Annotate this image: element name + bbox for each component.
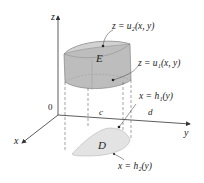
- h2-curve-label: x = h₂(y): [117, 161, 152, 172]
- y-upper-bound-label: d: [148, 107, 153, 117]
- h1-curve-label: x = h₁(y): [138, 91, 173, 102]
- bottom-surface-label: z = u₁(x, y): [137, 58, 180, 69]
- z-axis-label: z: [50, 11, 55, 22]
- leader-h2: [114, 154, 124, 160]
- diagram-canvas: z y x 0 E z = u₂(x, y) z = u₁(x, y) D x …: [0, 0, 204, 183]
- region-D-label: D: [97, 139, 106, 151]
- x-axis: [22, 115, 58, 143]
- y-axis-label: y: [183, 127, 189, 138]
- x-axis-label: x: [13, 135, 19, 146]
- top-surface-label: z = u₂(x, y): [111, 21, 154, 32]
- y-lower-bound-label: c: [99, 107, 103, 117]
- origin-label: 0: [48, 102, 53, 112]
- solid-E: [64, 41, 131, 90]
- leader-h1: [119, 104, 136, 127]
- y-axis: [58, 115, 190, 124]
- solid-label: E: [95, 52, 103, 64]
